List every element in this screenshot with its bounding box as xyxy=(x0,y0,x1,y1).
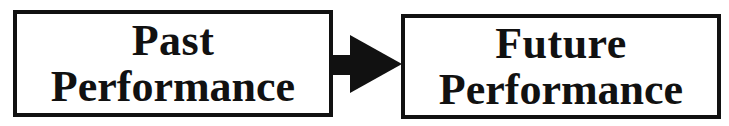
future-performance-box: Future Performance xyxy=(401,14,721,119)
past-performance-label-line2: Performance xyxy=(51,65,295,109)
future-performance-label-line1: Future xyxy=(495,22,627,66)
past-performance-label-line1: Past xyxy=(132,19,215,63)
right-arrow-icon xyxy=(332,32,404,96)
past-performance-box: Past Performance xyxy=(13,10,333,117)
future-performance-label-line2: Performance xyxy=(439,68,683,112)
